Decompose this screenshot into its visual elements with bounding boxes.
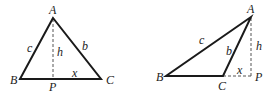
height-h-label: h	[256, 39, 262, 53]
vertex-a-label: A	[246, 2, 255, 16]
segment-x-label: x	[71, 66, 78, 80]
side-b-label: b	[82, 39, 88, 53]
vertex-a-label: A	[48, 3, 57, 17]
side-c-label: c	[27, 41, 33, 55]
obtuse-triangle-figure: A B C P c b h x	[156, 2, 263, 92]
side-c-label: c	[199, 33, 205, 47]
vertex-c-label: C	[218, 79, 227, 92]
foot-p-label: P	[48, 80, 57, 92]
triangle-diagrams: A B C P c b h x A B C P c b h x	[0, 0, 274, 92]
vertex-b-label: B	[10, 73, 18, 87]
height-h-label: h	[57, 45, 63, 59]
acute-triangle-figure: A B C P c b h x	[10, 3, 115, 92]
vertex-b-label: B	[156, 70, 164, 84]
foot-p-label: P	[254, 70, 263, 84]
vertex-c-label: C	[106, 73, 115, 87]
side-b-label: b	[226, 44, 232, 58]
segment-x-label: x	[236, 63, 243, 77]
